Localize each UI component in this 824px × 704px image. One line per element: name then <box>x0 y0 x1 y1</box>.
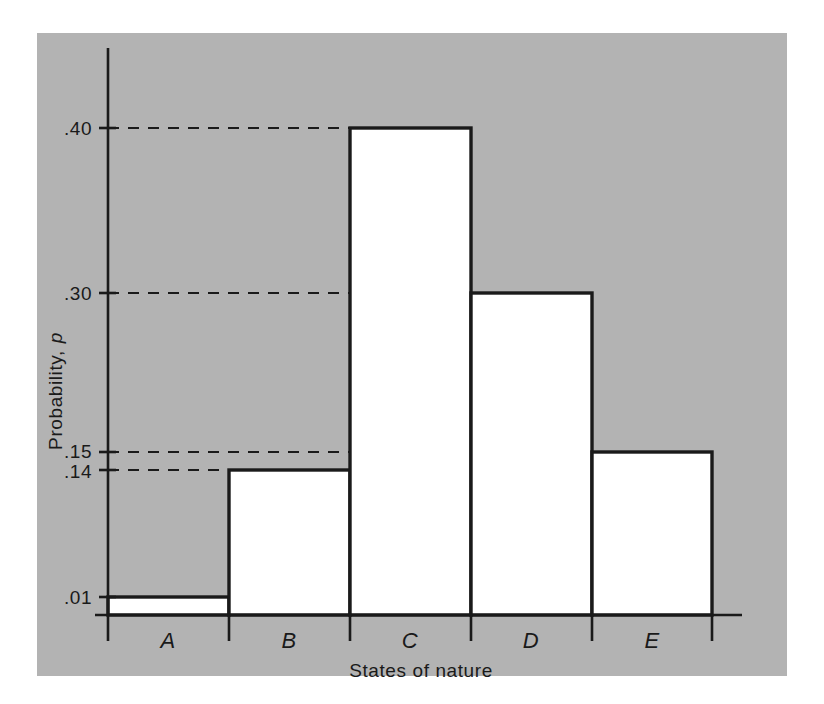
y-tick-label-015: .15 <box>64 441 92 462</box>
figure-canvas: .40 .30 .15 .14 .01 A B C D E States of … <box>0 0 824 704</box>
y-axis-title-group: Probability, p <box>45 333 66 450</box>
x-category-label-D: D <box>523 628 539 653</box>
x-axis-title: States of nature <box>349 660 493 681</box>
bar-E <box>592 452 712 615</box>
x-category-label-B: B <box>281 628 296 653</box>
y-axis-title: Probability, <box>45 350 66 450</box>
y-tick-label-001: .01 <box>64 587 92 608</box>
x-category-label-C: C <box>402 628 418 653</box>
y-tick-label-030: .30 <box>64 283 92 304</box>
bar-A <box>108 597 229 615</box>
bar-B <box>229 470 350 615</box>
x-category-label-E: E <box>644 628 659 653</box>
chart-svg: .40 .30 .15 .14 .01 A B C D E States of … <box>0 0 824 704</box>
x-category-label-A: A <box>158 628 175 653</box>
bar-D <box>471 293 592 615</box>
y-tick-label-014: .14 <box>64 461 92 482</box>
y-axis-title-symbol: p <box>45 333 66 345</box>
y-tick-label-040: .40 <box>64 118 92 139</box>
bar-C <box>350 128 471 615</box>
